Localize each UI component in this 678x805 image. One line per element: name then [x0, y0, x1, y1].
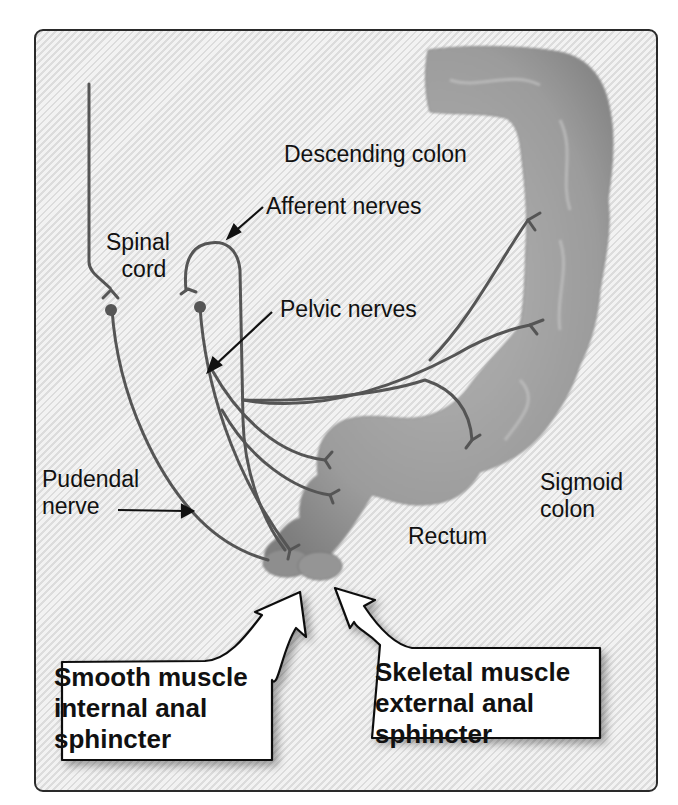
pudendal-line2: nerve: [42, 493, 139, 520]
callout-1-line-2: internal anal: [54, 693, 261, 724]
label-pelvic-nerves: Pelvic nerves: [280, 296, 417, 323]
label-descending-colon: Descending colon: [284, 141, 467, 168]
callout-2-line-1: Skeletal muscle: [375, 657, 599, 688]
callout-2-line-2: external anal: [375, 688, 599, 719]
pelvic-neuron-body: [194, 301, 206, 313]
pudendal-line1: Pudendal: [42, 466, 139, 493]
callout-internal-anal-sphincter: Smooth muscle internal anal sphincter: [43, 650, 271, 772]
label-spinal-cord: Spinal cord: [106, 229, 170, 283]
callout-external-anal-sphincter: Skeletal muscle external anal sphincter: [364, 645, 609, 753]
callout-1-line-3: sphincter: [54, 724, 261, 755]
pudendal-neuron-body: [105, 304, 117, 316]
spinal-cord-line1: Spinal: [106, 229, 170, 256]
sigmoid-line1: Sigmoid: [540, 469, 623, 496]
callout-1-line-1: Smooth muscle: [54, 662, 261, 693]
label-sigmoid-colon: Sigmoid colon: [540, 469, 623, 523]
label-rectum: Rectum: [408, 523, 487, 550]
sigmoid-line2: colon: [540, 496, 623, 523]
spinal-cord-line2: cord: [106, 256, 170, 283]
label-pudendal-nerve: Pudendal nerve: [42, 466, 139, 520]
label-afferent-nerves: Afferent nerves: [266, 193, 422, 220]
callout-2-line-3: sphincter: [375, 719, 599, 750]
